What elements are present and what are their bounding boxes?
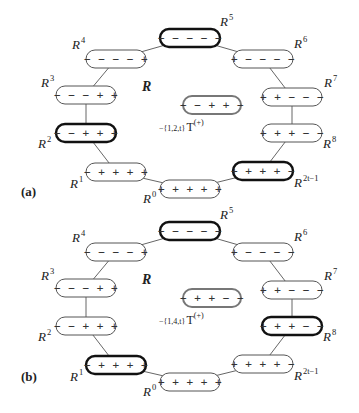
sign-pattern: + − − − − [231,53,295,66]
ring-diagram: + + + + +R0− + + + +R1− − + + +R2− − − +… [0,0,359,413]
node-label: R4 [71,228,86,245]
panel-b: + + + + +R0− + + + +R1− − + + +R2− − − +… [21,205,337,399]
panel-label: (a) [21,184,36,199]
node-label: R2 [37,134,51,151]
node-R7: + + − − −R7 [260,266,337,299]
sign-pattern: − − + + + [54,127,118,140]
node-label: R7 [323,73,337,90]
node-label: R6 [293,227,307,244]
node-label: R2t−1 [293,366,319,383]
node-R4: − − − − +R4 [71,228,148,261]
sign-pattern: + + − − − [260,91,324,104]
node-R4: − − − − +R4 [71,35,148,68]
sign-pattern: − − − − + [84,246,148,259]
set-label: R [141,272,151,287]
transformation-label: −{1,4,t}T(+) [159,311,204,327]
node-label: R0 [142,382,156,399]
node-label: R2t−1 [293,173,319,190]
transformed-sign-pattern: − − + + − [180,99,244,112]
sign-pattern: − + + + + [84,359,148,372]
sign-pattern: − − − − − [158,225,222,238]
node-label: R5 [219,205,233,222]
node-R2t-1: + + + + −R2t−1 [231,162,319,190]
panel-label: (b) [21,369,37,384]
sign-pattern: − − − − − [158,32,222,45]
node-label: R0 [142,189,156,206]
node-label: R8 [322,327,336,344]
node-R6: + − − − −R6 [231,227,307,261]
node-R2: − − + + +R2 [37,317,118,344]
sign-pattern: + + + + + [158,376,222,389]
node-R6: + − − − −R6 [231,34,307,68]
sign-pattern: + + + − − [260,320,324,333]
transformed-node: − − + + − [180,96,244,114]
transformation-label: −{1,2,t}T(+) [159,118,204,134]
transformed-node: − + + − − [180,289,244,307]
node-R2t-1: + + + + −R2t−1 [231,355,319,383]
node-label: R8 [322,134,336,151]
node-label: R4 [71,35,86,52]
node-label: R6 [293,34,307,51]
node-R1: − + + + +R1 [69,163,148,191]
sign-pattern: + + + + + [158,183,222,196]
node-label: R2 [37,327,51,344]
transformed-sign-pattern: − + + − − [180,292,244,305]
sign-pattern: − − − − + [84,53,148,66]
node-label: R1 [69,367,83,384]
node-label: R3 [40,266,54,283]
sign-pattern: − − − + + [54,89,118,102]
node-label: R7 [323,266,337,283]
node-R7: + + − − −R7 [260,73,337,106]
panel-a: + + + + +R0− + + + +R1− − + + +R2− − − +… [21,12,337,206]
node-R8: + + + − −R8 [260,124,336,151]
node-label: R1 [69,174,83,191]
sign-pattern: + − − − − [231,246,295,259]
node-R0: + + + + +R0 [142,373,222,399]
node-R1: − + + + +R1 [69,356,148,384]
sign-pattern: − − − + + [54,282,118,295]
sign-pattern: − − + + + [54,320,118,333]
sign-pattern: + + + + − [231,165,295,178]
node-R5: − − − − −R5 [158,12,233,47]
sign-pattern: + + + + − [231,358,295,371]
node-R2: − − + + +R2 [37,124,118,151]
node-R0: + + + + +R0 [142,180,222,206]
node-R3: − − − + +R3 [40,266,118,297]
node-R3: − − − + +R3 [40,73,118,104]
node-label: R3 [40,73,54,90]
set-label: R [141,79,151,94]
sign-pattern: + + − − − [260,284,324,297]
node-label: R5 [219,12,233,29]
sign-pattern: − + + + + [84,166,148,179]
node-R5: − − − − −R5 [158,205,233,240]
sign-pattern: + + + − − [260,127,324,140]
node-R8: + + + − −R8 [260,317,336,344]
